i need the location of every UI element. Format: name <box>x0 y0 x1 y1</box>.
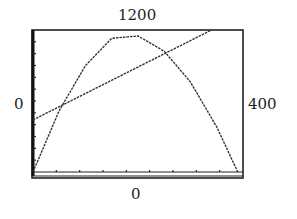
plot-area <box>0 0 297 219</box>
calculator-graph: 1200 0 400 0 <box>0 0 297 219</box>
